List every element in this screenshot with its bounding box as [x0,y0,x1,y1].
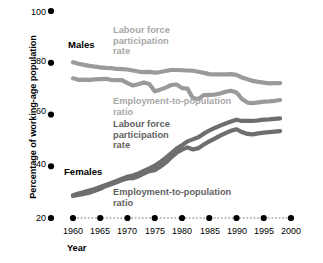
x-tick-label-1995: 1995 [249,226,279,236]
y-axis-title: Percentage of working-age population [28,17,38,217]
annotation-males-epr: Employment-to-population ratio [113,96,231,117]
x-tick-label-1990: 1990 [222,226,252,236]
group-label-males: Males [68,39,95,50]
x-tick-label-1970: 1970 [112,226,142,236]
y-tick-label-100: 100 [22,7,46,17]
annotation-females-lfp: Labour force participation rate [113,119,170,151]
y-tick-label-40: 40 [22,159,46,169]
series-line [73,118,280,195]
group-label-females: Females [64,166,102,177]
y-tick-label-80: 80 [22,56,46,66]
x-tick-label-1960: 1960 [58,226,88,236]
y-axis-tick-dots [48,8,54,221]
annotation-males-lfp: Labour force participation rate [113,25,170,57]
y-tick-label-20: 20 [22,213,46,223]
annotation-females-epr: Employment-to-population ratio [113,187,231,208]
chart-container: Percentage of working-age population Yea… [0,0,323,263]
x-tick-label-2000: 2000 [276,226,306,236]
chart-series-lines [73,62,280,196]
series-line [73,129,280,196]
y-tick-label-60: 60 [22,106,46,116]
x-tick-label-1975: 1975 [140,226,170,236]
x-tick-label-1965: 1965 [85,226,115,236]
x-axis-title: Year [67,243,86,253]
x-tick-label-1980: 1980 [167,226,197,236]
x-tick-label-1985: 1985 [195,226,225,236]
